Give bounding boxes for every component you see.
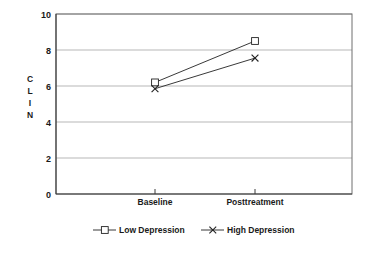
line-chart: 10 8 6 4 2 0 C L I N Baseline Posttreatm… bbox=[0, 0, 377, 256]
chart-legend: Low Depression High Depression bbox=[93, 225, 295, 235]
legend-entry-low-depression[interactable]: Low Depression bbox=[93, 225, 185, 235]
x-axis-category-labels: Baseline Posttreatment bbox=[138, 197, 284, 207]
x-category-label-baseline: Baseline bbox=[138, 197, 173, 207]
y-tick-label-6: 6 bbox=[46, 82, 51, 92]
y-axis-title-char-n: N bbox=[27, 110, 33, 120]
legend-entry-high-depression[interactable]: High Depression bbox=[201, 225, 295, 235]
y-tick-label-10: 10 bbox=[41, 10, 51, 20]
y-axis-title-char-l: L bbox=[27, 86, 32, 96]
y-tick-label-8: 8 bbox=[46, 46, 51, 56]
data-point-low-depression-baseline bbox=[152, 79, 159, 86]
data-point-low-depression-posttreatment bbox=[252, 38, 259, 45]
y-axis-title: C L I N bbox=[27, 74, 33, 120]
legend-marker-square-icon bbox=[101, 227, 108, 234]
legend-label-low-depression: Low Depression bbox=[119, 225, 185, 235]
y-axis-tick-labels: 10 8 6 4 2 0 bbox=[41, 10, 51, 200]
y-axis-title-char-c: C bbox=[27, 74, 33, 84]
y-tick-label-4: 4 bbox=[46, 118, 51, 128]
x-category-label-posttreatment: Posttreatment bbox=[226, 197, 283, 207]
y-axis-title-char-i: I bbox=[29, 98, 31, 108]
legend-label-high-depression: High Depression bbox=[227, 225, 295, 235]
chart-container: 10 8 6 4 2 0 C L I N Baseline Posttreatm… bbox=[0, 0, 377, 256]
plot-area-background bbox=[56, 14, 352, 194]
y-tick-label-0: 0 bbox=[46, 190, 51, 200]
y-tick-label-2: 2 bbox=[46, 154, 51, 164]
